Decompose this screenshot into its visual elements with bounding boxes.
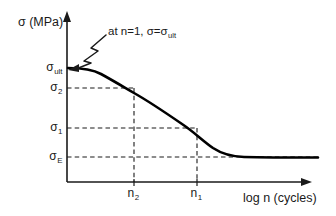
sn-curve-line [68,68,318,158]
y-tick-base-sigma-E: σ [49,149,56,163]
annotation-squiggle-icon [76,35,106,69]
ultimate-strength-annotation: at n=1, σ=σult [108,26,176,38]
vertical-guides [134,88,197,182]
x-tick-sub-n-2: 2 [135,193,139,202]
x-axis-arrowhead [301,178,312,186]
y-tick-sub-sigma-ult: ult [54,67,62,76]
y-tick-sub-sigma-1: 1 [58,127,62,136]
y-tick-base-sigma-1: σ [50,120,57,134]
x-axis [67,178,312,186]
annotation-pointer [68,35,106,72]
sn-curve-figure: σ (MPa) log n (cycles) at n=1, σ=σult σu… [0,0,336,216]
y-tick-sub-sigma-E: E [57,156,62,165]
x-tick-label-n-2: n2 [118,187,148,199]
horizontal-guides [67,88,318,157]
y-tick-label-sigma-ult: σult [20,61,62,73]
x-tick-base-n-2: n [127,186,134,200]
y-tick-label-sigma-1: σ1 [20,121,62,133]
y-axis [63,11,71,182]
annotation-text-subscript: ult [168,31,176,40]
y-axis-label: σ (MPa) [18,16,63,29]
x-tick-label-n-1: n1 [181,187,211,199]
x-axis-label: log n (cycles) [243,192,317,205]
y-tick-sub-sigma-2: 2 [58,87,62,96]
x-tick-sub-n-1: 1 [198,193,202,202]
y-axis-arrowhead [63,11,71,22]
y-tick-label-sigma-2: σ2 [20,81,62,93]
annotation-text-main: at n=1, σ=σ [108,25,168,37]
y-tick-base-sigma-2: σ [50,80,57,94]
y-tick-base-sigma-ult: σ [46,60,53,74]
x-tick-base-n-1: n [190,186,197,200]
y-tick-label-sigma-E: σE [20,150,62,162]
